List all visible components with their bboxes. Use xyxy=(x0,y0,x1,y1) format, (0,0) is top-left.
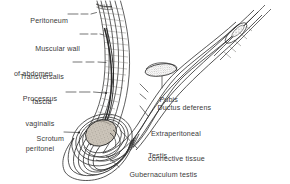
dot-scrotum xyxy=(78,131,80,133)
label-ductus-deferens-text: Ductus deferens xyxy=(157,104,211,112)
label-gubernaculum-testis: Gubernaculum testis xyxy=(121,163,227,184)
peritoneum-line xyxy=(96,4,113,10)
label-peritoneum-text: Peritoneum xyxy=(30,17,68,25)
figure-panel: Peritoneum Muscular wall of abdomen Tran… xyxy=(0,0,290,184)
label-scrotum: Scrotum xyxy=(20,127,64,152)
label-processus-line1: Processus xyxy=(14,95,66,103)
label-extraperitoneal-line1: Extraperitoneal xyxy=(151,130,243,138)
label-muscular-wall-line1: Muscular wall xyxy=(8,45,80,53)
upper-duct-detail xyxy=(214,5,271,60)
label-gubernaculum-text: Gubernaculum testis xyxy=(129,171,197,179)
leader-peritoneum xyxy=(68,13,97,15)
label-processus-vaginalis-peritonei: Processus vaginalis peritonei xyxy=(14,78,66,170)
label-testis-text: Testis xyxy=(148,152,167,160)
pubis-bone xyxy=(144,62,177,78)
dot-processus xyxy=(105,92,107,94)
leader-ductus-deferens xyxy=(140,94,146,99)
leader-muscular-wall xyxy=(80,34,104,35)
label-scrotum-text: Scrotum xyxy=(37,135,64,143)
leader-testis xyxy=(120,130,137,148)
leader-scrotum xyxy=(64,132,78,133)
